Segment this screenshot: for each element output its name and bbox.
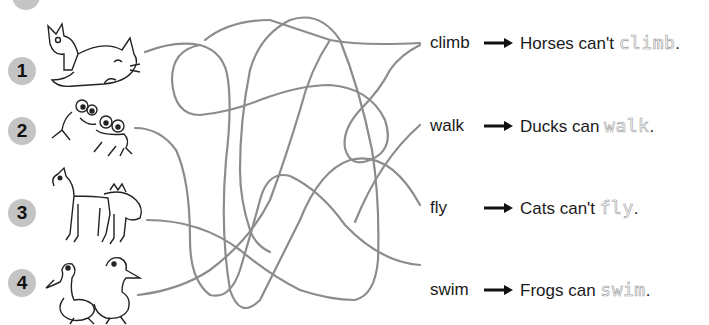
word-fly: fly (430, 198, 478, 218)
word-swim: swim (430, 280, 478, 300)
sentence-walk: Ducks can walk. (520, 115, 654, 137)
traced-word-fly[interactable]: fly (600, 197, 634, 218)
word-climb: climb (430, 33, 478, 53)
maze-line-to-climb (270, 20, 420, 44)
maze-line-top-arc (205, 20, 270, 40)
arrow-icon (484, 120, 514, 132)
arrow-icon (484, 202, 514, 214)
answer-row-fly: fly Cats can't fly. (430, 195, 639, 221)
sentence-swim: Frogs can swim. (520, 279, 650, 301)
traced-word-climb[interactable]: climb (619, 32, 676, 53)
traced-word-swim[interactable]: swim (600, 279, 645, 300)
maze-line-ducks (138, 40, 330, 295)
maze-line-horses (147, 18, 378, 301)
arrow-icon (484, 284, 514, 296)
traced-word-walk[interactable]: walk (604, 115, 649, 136)
maze-line-loop (172, 45, 420, 162)
sentence-climb: Horses can't climb. (520, 32, 680, 54)
arrow-icon (484, 37, 514, 49)
sentence-fly: Cats can't fly. (520, 197, 639, 219)
word-walk: walk (430, 116, 478, 136)
answer-row-walk: walk Ducks can walk. (430, 113, 654, 139)
answer-row-swim: swim Frogs can swim. (430, 277, 650, 303)
answer-row-climb: climb Horses can't climb. (430, 30, 680, 56)
